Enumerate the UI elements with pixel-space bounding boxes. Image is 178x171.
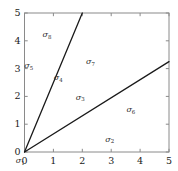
x-tick-label-3: 3 <box>108 156 114 166</box>
y-tick-label-5: 5 <box>14 8 20 18</box>
region-label-sigma-3: σ3 <box>76 94 85 102</box>
region-label-sigma-1: σ1 <box>16 157 25 165</box>
y-tick-label-2: 2 <box>14 92 20 102</box>
x-tick-label-5: 5 <box>166 156 172 166</box>
x-tick-label-4: 4 <box>137 156 143 166</box>
y-tick-label-3: 3 <box>14 64 20 74</box>
region-label-sigma-8: σ8 <box>43 31 52 39</box>
region-label-sigma-4: σ4 <box>54 74 63 82</box>
figure-canvas: 012345 012345 σ1σ2σ3σ4σ5σ6σ7σ8 <box>0 0 178 171</box>
y-tick-label-1: 1 <box>14 119 20 129</box>
y-tick-label-4: 4 <box>14 36 20 46</box>
region-label-sigma-7: σ7 <box>86 58 95 66</box>
region-label-sigma-5: σ5 <box>24 62 33 70</box>
plot-area <box>0 0 178 171</box>
region-label-sigma-2: σ2 <box>105 136 114 144</box>
region-label-sigma-6: σ6 <box>126 106 135 114</box>
x-tick-label-1: 1 <box>50 156 56 166</box>
x-tick-label-2: 2 <box>79 156 85 166</box>
